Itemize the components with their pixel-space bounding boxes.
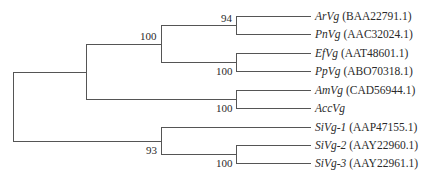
leaf-sivg-3: SiVg-3 (AAY22961.1) — [315, 157, 418, 169]
leaf-name: ArVg — [315, 10, 339, 22]
leaf-efvg: EfVg (AAT48601.1) — [315, 47, 408, 59]
leaf-sivg-2: SiVg-2 (AAY22960.1) — [315, 139, 418, 151]
bootstrap-amvg-accvg: 100 — [216, 103, 233, 114]
leaf-name: SiVg-2 — [315, 139, 346, 151]
leaf-name: SiVg-3 — [315, 157, 346, 169]
leaf-ppvg: PpVg (ABO70318.1) — [315, 65, 413, 77]
leaf-pnvg: PnVg (AAC32024.1) — [315, 28, 413, 40]
leaf-accession: (CAD56944.1) — [346, 84, 415, 96]
leaf-name: PnVg — [315, 28, 341, 40]
leaf-name: SiVg-1 — [315, 121, 346, 133]
leaf-accession: (ABO70318.1) — [343, 65, 412, 77]
bootstrap-arvg-pnvg: 94 — [221, 13, 232, 24]
leaf-accession: (AAC32024.1) — [343, 28, 412, 40]
leaf-accvg: AccVg — [315, 102, 345, 114]
leaf-accession: (AAY22960.1) — [349, 139, 418, 151]
leaf-accession: (AAT48601.1) — [341, 47, 408, 59]
leaf-amvg: AmVg (CAD56944.1) — [315, 84, 415, 96]
bootstrap-sivg-clade: 93 — [146, 145, 157, 156]
leaf-accession: (AAY22961.1) — [349, 157, 418, 169]
bootstrap-arvg-ppvg-clade: 100 — [140, 31, 157, 42]
leaf-name: PpVg — [315, 65, 341, 77]
leaf-accession: (AAP47155.1) — [349, 121, 417, 133]
leaf-name: AmVg — [315, 84, 343, 96]
leaf-name: AccVg — [315, 102, 345, 114]
leaf-arvg: ArVg (BAA22791.1) — [315, 10, 411, 22]
bootstrap-efvg-ppvg: 100 — [216, 66, 233, 77]
leaf-name: EfVg — [315, 47, 338, 59]
leaf-accession: (BAA22791.1) — [342, 10, 411, 22]
bootstrap-sivg2-sivg3: 100 — [216, 158, 233, 169]
leaf-sivg-1: SiVg-1 (AAP47155.1) — [315, 121, 417, 133]
